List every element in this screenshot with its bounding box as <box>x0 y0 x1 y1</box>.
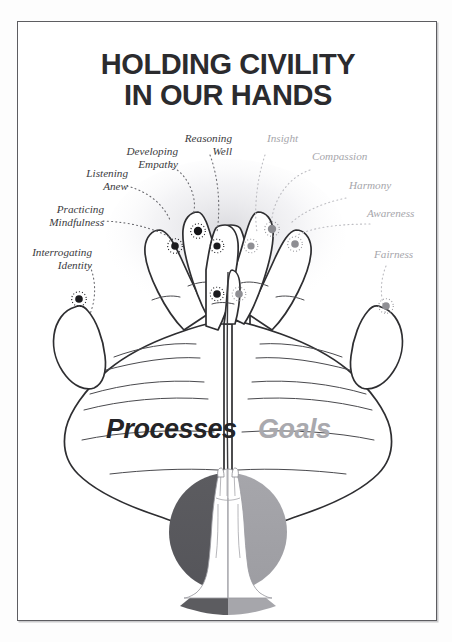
heading-goals: Goals <box>258 414 331 445</box>
leader-interrogating-identity <box>90 266 95 314</box>
label-compassion: Compassion <box>312 150 408 163</box>
label-reasoning-well: Reasoning Well <box>170 132 232 157</box>
label-listening-anew: Listening Anew <box>62 167 128 192</box>
poster-canvas: HOLDING CIVILITY IN OUR HANDS <box>0 0 452 642</box>
label-harmony: Harmony <box>349 179 437 192</box>
heading-processes: Processes <box>106 414 237 445</box>
label-insight: Insight <box>267 132 347 145</box>
label-interrogating-identity: Interrogating Identity <box>6 246 92 271</box>
label-practicing-mindfulness: Practicing Mindfulness <box>20 203 104 228</box>
emblem-left-thumb <box>218 468 224 477</box>
poster-frame: HOLDING CIVILITY IN OUR HANDS <box>17 21 437 621</box>
right-thumb <box>350 306 402 389</box>
praying-hands-emblem <box>169 468 287 615</box>
label-fairness: Fairness <box>374 248 452 261</box>
hands-center-seam <box>227 272 228 492</box>
label-awareness: Awareness <box>367 207 452 220</box>
dot-interrogating-identity <box>72 292 87 307</box>
left-thumb <box>54 306 106 389</box>
civility-hands-illustration <box>18 22 438 622</box>
emblem-right-thumb <box>232 468 238 477</box>
